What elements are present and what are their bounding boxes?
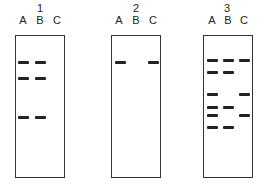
band (239, 59, 250, 62)
band (35, 77, 46, 80)
band (223, 126, 234, 129)
band (207, 59, 218, 62)
lane-label-b: B (34, 14, 46, 26)
band (115, 61, 126, 64)
band (223, 106, 234, 109)
band (239, 93, 250, 96)
band (223, 59, 234, 62)
band (148, 61, 159, 64)
gel-number: 3 (217, 2, 237, 14)
lane-label-c: C (238, 14, 250, 26)
band (18, 61, 29, 64)
band (18, 116, 29, 119)
band (18, 77, 29, 80)
lane-label-b: B (130, 14, 142, 26)
lane-label-b: B (222, 14, 234, 26)
gel-box (111, 35, 161, 178)
band (207, 71, 218, 74)
band (223, 71, 234, 74)
gel-number: 1 (30, 2, 50, 14)
gel-box (15, 35, 65, 178)
lane-label-c: C (51, 14, 63, 26)
lane-label-a: A (17, 14, 29, 26)
band (35, 61, 46, 64)
band (207, 114, 218, 117)
gel-number: 2 (126, 2, 146, 14)
band (207, 106, 218, 109)
band (35, 116, 46, 119)
lane-label-a: A (113, 14, 125, 26)
band (207, 93, 218, 96)
lane-label-c: C (147, 14, 159, 26)
band (207, 126, 218, 129)
lane-label-a: A (206, 14, 218, 26)
band (239, 114, 250, 117)
